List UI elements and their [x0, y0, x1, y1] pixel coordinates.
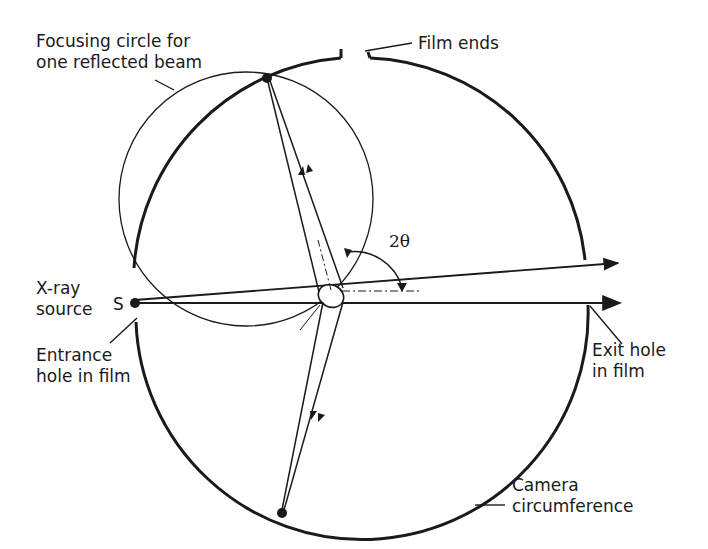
film-ends-label: Film ends: [418, 33, 499, 54]
exit-hole-label: Exit hole in film: [592, 340, 666, 382]
upper-focus-point: [262, 73, 272, 83]
two-theta-label: 2θ: [389, 231, 410, 252]
reflected-beam-lower: [282, 302, 343, 510]
angle-arrow-left-icon: [344, 248, 352, 258]
leader-lines: [110, 43, 622, 505]
transmitted-ray: [135, 263, 618, 300]
source-point: [130, 298, 140, 308]
lower-focus-point: [277, 508, 287, 518]
xray-source-label: X-ray source: [36, 278, 92, 320]
source-point-label: S: [113, 294, 124, 315]
camera-circumference-label: Camera circumference: [512, 475, 633, 517]
entrance-hole-label: Entrance hole in film: [36, 345, 131, 387]
focusing-circle-label: Focusing circle for one reflected beam: [36, 31, 202, 73]
powder-camera-diagram: [0, 0, 708, 549]
arrow-lower-beam-icon: [310, 411, 325, 422]
reflected-beam-upper: [267, 78, 343, 292]
